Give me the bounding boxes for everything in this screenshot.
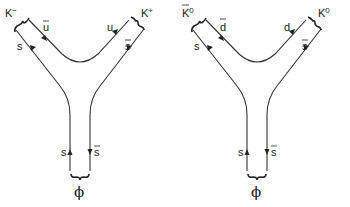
parent-label-phi: ϕ — [251, 183, 261, 201]
stem-quark-label-s: s — [61, 146, 67, 158]
diagram-phi-to-neutral-kaons: K0 K0 s d d s s s ϕ — [182, 5, 330, 201]
meson-label-right: K+ — [141, 6, 153, 19]
stem-quark-label-s: s — [238, 146, 244, 158]
quark-label-sbar: s — [125, 40, 131, 52]
quark-label-s: s — [17, 40, 23, 52]
stem-quark-label-sbar: s — [271, 146, 277, 158]
quark-label-dbar: d — [220, 21, 226, 33]
meson-label-left: K− — [5, 6, 17, 19]
arrow-up-icon — [30, 45, 36, 51]
quark-label-sbar: s — [302, 40, 308, 52]
brace-stem — [248, 174, 266, 180]
quark-label-ubar: u — [43, 21, 49, 33]
arrow-up-icon — [68, 149, 73, 155]
arrow-up-icon — [245, 149, 250, 155]
quark-label-s: s — [194, 40, 200, 52]
brace-left-meson — [192, 18, 206, 32]
arrow-down-icon — [88, 149, 93, 155]
meson-label-right: K0 — [318, 6, 330, 19]
parent-label-phi: ϕ — [74, 183, 84, 201]
brace-left-meson — [15, 18, 29, 32]
quark-label-u: u — [107, 21, 113, 33]
brace-stem — [71, 174, 89, 180]
diagram-phi-to-charged-kaons: K− K+ s u u s s s ϕ — [5, 6, 153, 201]
arrow-down-icon — [265, 149, 270, 155]
stem-quark-label-sbar: s — [94, 146, 100, 158]
meson-label-left: K0 — [182, 6, 194, 19]
quark-label-d: d — [284, 21, 290, 33]
arrow-up-icon — [207, 45, 213, 51]
